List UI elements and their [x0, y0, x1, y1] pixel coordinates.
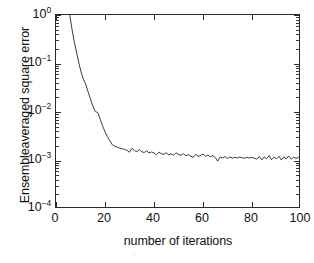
y-minor-tick-right [296, 194, 299, 195]
learning-curve-line [70, 15, 299, 161]
y-minor-tick [56, 26, 59, 27]
x-tick-mark-top [105, 15, 106, 20]
y-minor-tick-right [296, 123, 299, 124]
y-minor-tick [56, 68, 59, 69]
y-minor-tick-right [296, 49, 299, 50]
x-tick-mark [105, 202, 106, 207]
y-minor-tick [56, 66, 59, 67]
y-minor-tick-right [296, 168, 299, 169]
y-minor-tick-right [296, 34, 299, 35]
y-minor-tick [56, 180, 59, 181]
y-minor-tick-right [296, 68, 299, 69]
x-tick-mark-top [252, 15, 253, 20]
y-minor-tick-right [296, 26, 299, 27]
y-tick-mark-right [294, 112, 299, 113]
y-minor-tick-right [296, 180, 299, 181]
y-tick-mark-right [294, 15, 299, 16]
y-minor-tick-right [296, 30, 299, 31]
x-tick-mark [252, 202, 253, 207]
x-tick-label-100: 100 [280, 211, 314, 225]
y-minor-tick-right [296, 71, 299, 72]
y-minor-tick [56, 83, 59, 84]
x-tick-label-20: 20 [84, 211, 124, 225]
y-minor-tick-right [296, 23, 299, 24]
y-minor-tick [56, 120, 59, 121]
y-minor-tick [56, 34, 59, 35]
x-tick-label-60: 60 [182, 211, 222, 225]
x-tick-label-80: 80 [231, 211, 271, 225]
y-minor-tick [56, 17, 59, 18]
x-tick-mark [154, 202, 155, 207]
y-minor-tick-right [296, 171, 299, 172]
y-minor-tick [56, 127, 59, 128]
x-tick-mark [203, 202, 204, 207]
y-minor-tick [56, 71, 59, 72]
y-minor-tick [56, 175, 59, 176]
y-tick-label-1e-2: 10−2 [19, 103, 51, 117]
y-minor-tick [56, 137, 59, 138]
x-tick-mark-top [154, 15, 155, 20]
y-tick-mark-right [294, 161, 299, 162]
y-minor-tick [56, 74, 59, 75]
y-tick-label-1e-1: 10−1 [19, 55, 51, 69]
y-minor-tick-right [296, 89, 299, 90]
y-minor-tick [56, 168, 59, 169]
y-minor-tick-right [296, 175, 299, 176]
y-minor-tick-right [296, 120, 299, 121]
y-minor-tick-right [296, 117, 299, 118]
x-tick-label-40: 40 [133, 211, 173, 225]
y-tick-mark-right [294, 64, 299, 65]
y-minor-tick [56, 40, 59, 41]
y-minor-tick [56, 163, 59, 164]
y-minor-tick-right [296, 127, 299, 128]
y-tick-mark [56, 112, 61, 113]
plot-area [55, 14, 300, 208]
y-minor-tick-right [296, 83, 299, 84]
y-minor-tick [56, 146, 59, 147]
y-minor-tick-right [296, 74, 299, 75]
scan-artifact [128, 252, 162, 257]
y-minor-tick [56, 114, 59, 115]
y-minor-tick-right [296, 165, 299, 166]
error-curve-plot [56, 15, 300, 208]
y-minor-tick-right [296, 114, 299, 115]
y-tick-mark [56, 15, 61, 16]
x-tick-mark [56, 202, 57, 207]
y-minor-tick [56, 117, 59, 118]
y-tick-mark [56, 64, 61, 65]
y-minor-tick [56, 186, 59, 187]
y-minor-tick [56, 165, 59, 166]
y-tick-mark [56, 161, 61, 162]
y-minor-tick [56, 20, 59, 21]
y-minor-tick-right [296, 137, 299, 138]
y-minor-tick [56, 171, 59, 172]
y-minor-tick [56, 78, 59, 79]
x-axis-label: number of iterations [55, 234, 301, 248]
y-minor-tick-right [296, 20, 299, 21]
y-minor-tick [56, 49, 59, 50]
y-minor-tick [56, 131, 59, 132]
y-minor-tick-right [296, 66, 299, 67]
x-tick-mark-top [203, 15, 204, 20]
y-minor-tick [56, 123, 59, 124]
y-minor-tick-right [296, 131, 299, 132]
y-tick-label-1e0: 100 [19, 7, 51, 21]
y-minor-tick-right [296, 163, 299, 164]
x-tick-label-0: 0 [35, 211, 75, 225]
y-minor-tick-right [296, 186, 299, 187]
y-minor-tick [56, 30, 59, 31]
y-minor-tick [56, 97, 59, 98]
y-minor-tick-right [296, 97, 299, 98]
figure: Ensembleaveraged square error 100 10−1 1… [0, 0, 314, 263]
y-minor-tick-right [296, 78, 299, 79]
y-minor-tick [56, 89, 59, 90]
y-tick-label-1e-3: 10−3 [19, 152, 51, 166]
y-minor-tick-right [296, 146, 299, 147]
y-minor-tick-right [296, 17, 299, 18]
y-minor-tick [56, 23, 59, 24]
y-minor-tick-right [296, 40, 299, 41]
y-minor-tick [56, 194, 59, 195]
